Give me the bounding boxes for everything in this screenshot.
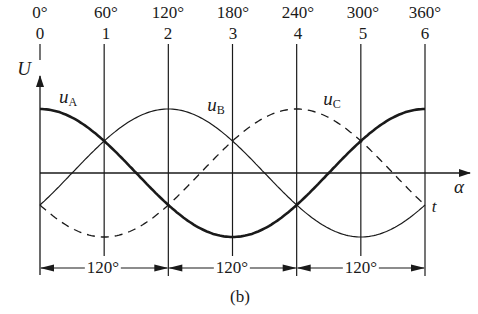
- curve-label-ub-main: u: [207, 94, 217, 115]
- index-tick-0: 0: [36, 25, 45, 42]
- dimension-label-1: 120°: [85, 259, 121, 276]
- dimension-arrowhead: [154, 265, 168, 272]
- dimension-arrowhead: [297, 265, 311, 272]
- index-tick-3: 3: [229, 25, 238, 42]
- index-tick-2: 2: [164, 25, 173, 42]
- curve-label-ub: uB: [207, 96, 225, 119]
- y-axis-label: U: [17, 60, 31, 77]
- dimension-arrowhead: [411, 265, 425, 272]
- curve-label-ub-sub: B: [217, 103, 225, 117]
- figure-caption: (b): [230, 288, 250, 305]
- degree-tick-120: 120°: [152, 4, 184, 21]
- three-phase-waveform-diagram: 0° 60° 120° 180° 240° 300° 360° 0 1 2 3 …: [0, 0, 478, 314]
- degree-tick-180: 180°: [217, 4, 249, 21]
- index-tick-4: 4: [294, 25, 303, 42]
- vertical-grid-lines: [40, 44, 425, 276]
- curve-label-uc-sub: C: [333, 97, 341, 111]
- curve-label-uc: uC: [323, 90, 341, 113]
- dimension-arrowhead: [283, 265, 297, 272]
- x-axis-label: α: [454, 178, 464, 195]
- time-label: t: [432, 198, 437, 215]
- curve-label-ua-main: u: [59, 86, 69, 107]
- index-tick-1: 1: [102, 25, 111, 42]
- degree-tick-360: 360°: [409, 4, 441, 21]
- index-tick-5: 5: [359, 25, 368, 42]
- curve-label-uc-main: u: [323, 88, 333, 109]
- index-tick-6: 6: [421, 25, 430, 42]
- degree-tick-60: 60°: [94, 4, 118, 21]
- dimension-label-3: 120°: [343, 259, 379, 276]
- degree-tick-300: 300°: [347, 4, 379, 21]
- curve-label-ua: uA: [59, 88, 77, 111]
- degree-tick-0: 0°: [32, 4, 47, 21]
- curve-label-ua-sub: A: [68, 95, 77, 109]
- dimension-arrowhead: [168, 265, 182, 272]
- dimension-arrowhead: [40, 265, 54, 272]
- degree-tick-240: 240°: [282, 4, 314, 21]
- dimension-label-2: 120°: [214, 259, 250, 276]
